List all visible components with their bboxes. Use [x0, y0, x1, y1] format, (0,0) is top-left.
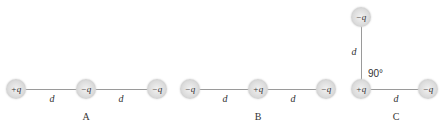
charge-negative: −q [316, 79, 336, 99]
charge-positive: +q [248, 79, 268, 99]
charge-negative: −q [147, 79, 167, 99]
distance-label: d [119, 93, 124, 104]
charge-negative-right: −q [418, 79, 438, 99]
angle-label: 90° [368, 68, 383, 79]
distance-label: d [352, 46, 357, 57]
charge-positive: +q [351, 79, 371, 99]
diagram-caption: B [255, 111, 262, 122]
distance-label: d [291, 93, 296, 104]
charge-negative-top: −q [351, 7, 371, 27]
diagram-caption: A [82, 111, 89, 122]
charge-positive: +q [6, 79, 26, 99]
charge-negative: −q [180, 79, 200, 99]
distance-label: d [50, 93, 55, 104]
diagram-caption: C [393, 111, 400, 122]
distance-label: d [223, 93, 228, 104]
charge-negative: −q [76, 79, 96, 99]
distance-label: d [394, 93, 399, 104]
